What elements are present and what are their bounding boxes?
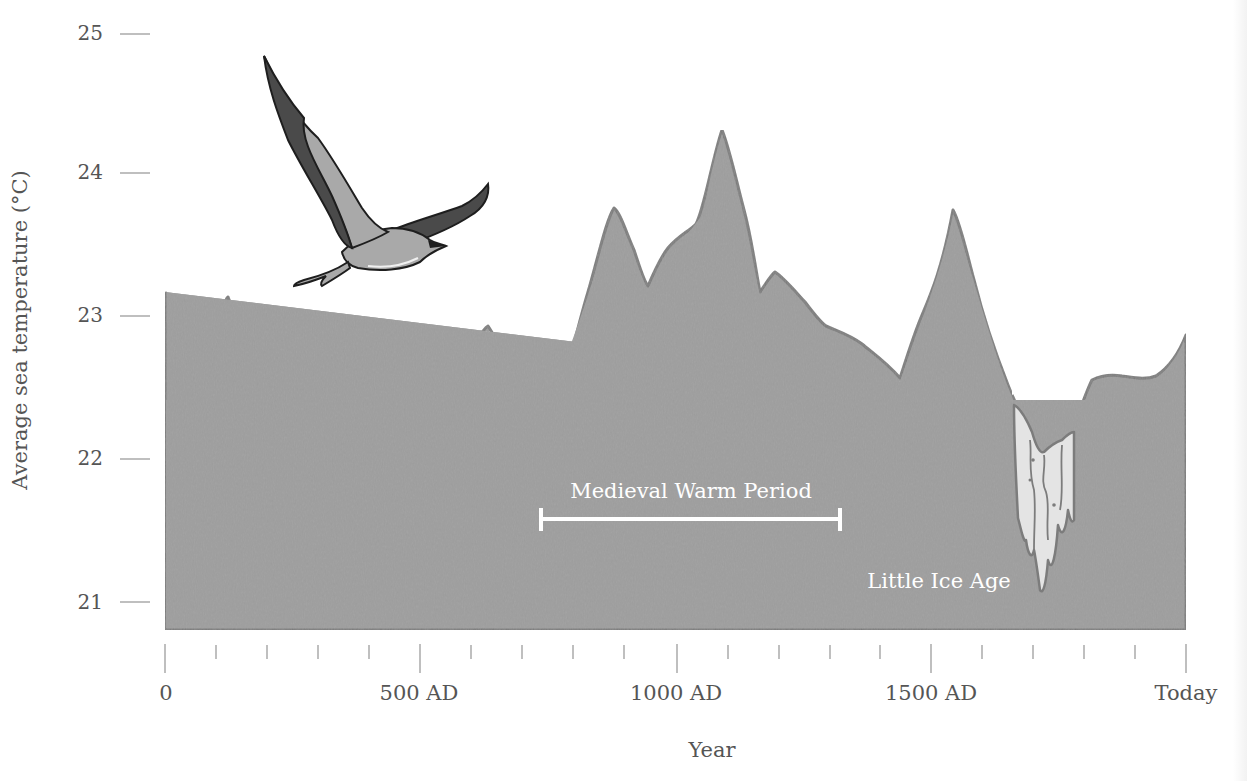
bird-near-wing-dark (264, 56, 352, 248)
y-tick-label-21: 21 (78, 590, 103, 614)
x-tick-label-500: 500 AD (380, 681, 459, 705)
x-tick-label-1500: 1500 AD (885, 681, 977, 705)
bird-near-wing (264, 56, 388, 248)
x-tick-label-0: 0 (159, 681, 172, 705)
page-edge-shadow (1233, 0, 1247, 781)
y-tick-label-25: 25 (78, 21, 103, 45)
x-tick-label-today: Today (1155, 681, 1218, 705)
x-axis-title: Year (687, 738, 736, 762)
y-tick-label-23: 23 (78, 303, 103, 327)
little-ice-age-label: Little Ice Age (867, 569, 1011, 593)
y-tick-label-24: 24 (78, 160, 103, 184)
seabird-illustration (264, 56, 488, 286)
x-tick-label-1000: 1000 AD (630, 681, 722, 705)
y-axis-title: Average sea temperature (°C) (8, 170, 32, 490)
medieval-warm-period-label: Medieval Warm Period (570, 479, 812, 503)
bird-tail (294, 262, 350, 286)
y-axis: 25 24 23 22 21 (78, 21, 150, 614)
temperature-area-chart: Average sea temperature (°C) 25 24 23 22… (0, 0, 1247, 781)
y-tick-label-22: 22 (78, 446, 103, 470)
x-axis (165, 644, 1186, 673)
